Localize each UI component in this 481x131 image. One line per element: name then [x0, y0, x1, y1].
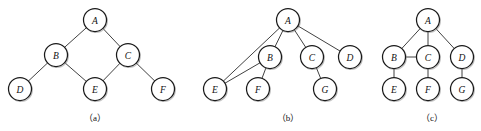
graph-node-D[interactable]: D [9, 78, 33, 102]
node-label: G [322, 85, 329, 95]
node-label: B [267, 53, 273, 63]
figure-root: ABCDEFABCDEFGABCDEFG （a）（b）（c） [0, 0, 481, 131]
graph-node-A[interactable]: A [277, 9, 301, 33]
node-label: D [458, 53, 466, 63]
node-label: A [424, 16, 431, 26]
graph-node-F[interactable]: F [417, 78, 441, 102]
graph-node-C[interactable]: C [117, 44, 141, 68]
node-label: E [211, 85, 218, 95]
graph-node-A[interactable]: A [84, 9, 108, 33]
node-label: A [91, 16, 98, 26]
graph-edge-C-F [136, 63, 155, 81]
node-label: E [91, 85, 98, 95]
node-label: E [390, 85, 397, 95]
node-label: F [159, 85, 166, 95]
node-label: D [16, 85, 24, 95]
graph-node-B[interactable]: B [45, 44, 69, 68]
graph-edge-B-F [262, 68, 266, 78]
node-label: C [309, 53, 316, 63]
node-label: F [424, 85, 431, 95]
graph-edge-B-D [28, 63, 47, 81]
node-label: A [284, 16, 291, 26]
graph-node-A[interactable]: A [417, 9, 441, 33]
graph-node-B[interactable]: B [383, 46, 407, 70]
caption-graph-b: （b） [277, 113, 300, 123]
node-label: C [425, 53, 432, 63]
captions-layer: （a）（b）（c） [84, 113, 443, 123]
caption-graph-a: （a） [84, 113, 106, 123]
graph-edge-A-B [275, 30, 283, 46]
graph-diagram-canvas: ABCDEFABCDEFGABCDEFG （a）（b）（c） [0, 0, 481, 131]
graph-edge-A-B [65, 28, 87, 48]
graph-node-F[interactable]: F [247, 78, 271, 102]
nodes-layer: ABCDEFABCDEFGABCDEFG [9, 9, 475, 102]
node-label: C [125, 51, 132, 61]
graph-edge-A-B [402, 28, 420, 48]
graph-node-G[interactable]: G [451, 78, 475, 102]
graph-node-E[interactable]: E [84, 78, 108, 102]
graph-edge-A-D [436, 28, 454, 48]
graph-node-B[interactable]: B [259, 46, 283, 70]
graph-node-E[interactable]: E [383, 78, 407, 102]
graph-node-C[interactable]: C [301, 46, 325, 70]
node-label: D [346, 53, 354, 63]
graph-node-D[interactable]: D [339, 46, 363, 70]
graph-node-G[interactable]: G [314, 78, 338, 102]
graph-node-F[interactable]: F [152, 78, 176, 102]
graph-edge-B-E [65, 63, 87, 82]
graph-node-C[interactable]: C [417, 46, 441, 70]
graph-node-D[interactable]: D [451, 46, 475, 70]
graph-node-E[interactable]: E [204, 78, 228, 102]
graph-edge-C-E [103, 63, 120, 81]
caption-graph-c: （c） [421, 113, 443, 123]
node-label: B [53, 51, 59, 61]
graph-edge-A-C [103, 28, 120, 46]
node-label: F [254, 85, 261, 95]
node-label: B [391, 53, 397, 63]
graph-edge-A-C [294, 30, 305, 48]
node-label: G [459, 85, 466, 95]
